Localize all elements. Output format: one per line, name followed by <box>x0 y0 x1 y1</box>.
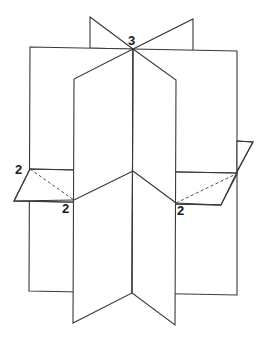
label-left-point: 2 <box>15 162 22 177</box>
label-top-point: 3 <box>128 33 135 48</box>
planes-diagram: 3 2 2 2 <box>0 0 269 341</box>
diagram-canvas: 3 2 2 2 <box>0 0 269 341</box>
back-plane <box>90 17 193 51</box>
label-bottom-right-point: 2 <box>177 203 184 218</box>
label-bottom-left-point: 2 <box>62 201 69 216</box>
